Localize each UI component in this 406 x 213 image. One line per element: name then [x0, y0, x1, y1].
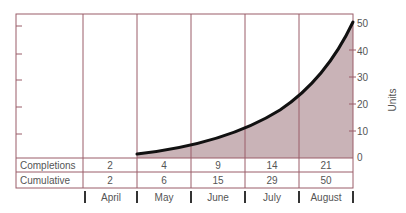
- table-row-cumulative: Cumulative 2 6 15 29 50: [20, 175, 332, 186]
- chart: 50 40 30 20 10 0 Units Completions 2 4 9…: [0, 0, 406, 213]
- svg-text:20: 20: [357, 99, 369, 110]
- table-row-completions: Completions 2 4 9 14 21: [20, 160, 332, 171]
- y-axis-title: Units: [387, 89, 398, 112]
- svg-text:June: June: [207, 192, 229, 203]
- svg-text:April: April: [101, 192, 121, 203]
- svg-text:29: 29: [266, 175, 278, 186]
- svg-text:10: 10: [357, 126, 369, 137]
- svg-text:40: 40: [357, 46, 369, 57]
- svg-text:August: August: [310, 192, 341, 203]
- svg-text:Cumulative: Cumulative: [20, 175, 70, 186]
- svg-text:50: 50: [357, 18, 369, 29]
- svg-text:May: May: [155, 192, 174, 203]
- y-axis-labels: 50 40 30 20 10 0: [357, 18, 369, 163]
- svg-text:2: 2: [107, 160, 113, 171]
- svg-text:0: 0: [357, 152, 363, 163]
- svg-text:6: 6: [161, 175, 167, 186]
- svg-text:15: 15: [212, 175, 224, 186]
- svg-text:July: July: [263, 192, 281, 203]
- svg-text:2: 2: [107, 175, 113, 186]
- svg-text:Completions: Completions: [20, 160, 76, 171]
- svg-text:30: 30: [357, 72, 369, 83]
- svg-text:21: 21: [320, 160, 332, 171]
- svg-text:14: 14: [266, 160, 278, 171]
- svg-text:4: 4: [161, 160, 167, 171]
- svg-text:50: 50: [320, 175, 332, 186]
- svg-text:9: 9: [215, 160, 221, 171]
